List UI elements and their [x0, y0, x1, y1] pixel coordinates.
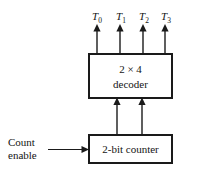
output-label-group: T0 T1 T2 T3 [92, 10, 171, 25]
count-enable-label-line2: enable [8, 149, 37, 161]
output-label-t0-sub: 0 [98, 16, 102, 25]
output-label-t3: T3 [161, 10, 171, 25]
arrow-up-icon-t2 [139, 24, 146, 32]
arrow-right-icon-count-enable [82, 146, 90, 153]
count-enable-input: Count enable [8, 136, 89, 161]
decoder-block-rect [89, 54, 172, 98]
decoder-block: 2 × 4 decoder [89, 54, 172, 98]
counter-to-decoder-wires [113, 98, 145, 136]
block-diagram: T0 T1 T2 T3 2 × 4 decoder [0, 0, 201, 172]
arrow-up-icon-t3 [161, 24, 168, 32]
output-label-t2-sub: 2 [145, 16, 149, 25]
decoder-block-label-line2: decoder [113, 78, 148, 90]
output-label-t3-sub: 3 [167, 16, 171, 25]
output-label-t1: T1 [116, 10, 126, 25]
arrow-up-icon-t0 [93, 24, 100, 32]
count-enable-label-line1: Count [8, 136, 35, 148]
counter-block-label: 2-bit counter [102, 143, 159, 155]
arrow-up-icon-t1 [116, 24, 123, 32]
counter-block: 2-bit counter [89, 135, 172, 163]
decoder-block-label-line1: 2 × 4 [119, 63, 142, 75]
decoder-output-wires [93, 24, 168, 54]
diagram-canvas: T0 T1 T2 T3 2 × 4 decoder [0, 0, 201, 172]
output-label-t1-sub: 1 [122, 16, 126, 25]
output-label-t2: T2 [139, 10, 149, 25]
output-label-t0: T0 [92, 10, 102, 25]
